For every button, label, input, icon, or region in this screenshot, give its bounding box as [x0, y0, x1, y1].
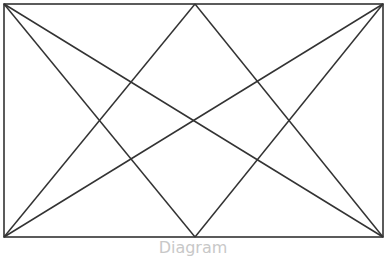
diagram-lines — [4, 4, 383, 237]
diagram-caption: Diagram — [0, 239, 386, 257]
